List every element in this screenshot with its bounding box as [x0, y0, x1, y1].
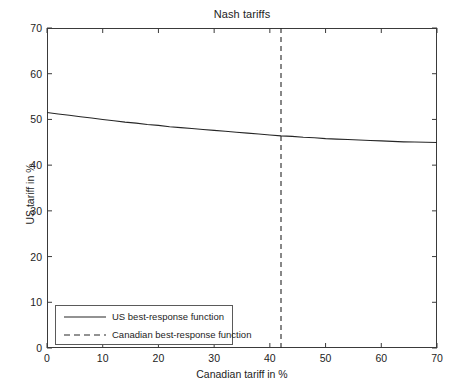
x-tick-label: 60: [361, 352, 401, 364]
page-title: Nash tariffs: [47, 8, 437, 20]
legend-label-canadian: Canadian best-response function: [112, 330, 251, 340]
y-tick-label: 10: [14, 296, 42, 308]
x-tick-label: 10: [83, 352, 123, 364]
x-tick-label: 50: [306, 352, 346, 364]
x-tick-label: 20: [138, 352, 178, 364]
y-tick-label: 50: [14, 113, 42, 125]
y-tick-label: 60: [14, 68, 42, 80]
axis-ticks: [47, 28, 437, 348]
legend-item-canadian: Canadian best-response function: [56, 325, 232, 344]
x-tick-label: 40: [250, 352, 290, 364]
nash-tariffs-figure: Nash tariffs 010203040506070 01020304050…: [0, 0, 455, 387]
legend-label-us: US best-response function: [112, 312, 224, 322]
x-tick-label: 30: [194, 352, 234, 364]
legend-solid-line-icon: [62, 311, 108, 323]
x-axis-title: Canadian tariff in %: [47, 368, 437, 380]
y-axis-title: US tariff in %: [24, 134, 36, 254]
legend-item-us: US best-response function: [56, 307, 232, 326]
plot-canvas: [47, 28, 437, 348]
legend-dashed-line-icon: [62, 329, 108, 341]
legend: US best-response function Canadian best-…: [55, 305, 233, 345]
us-best-response-curve: [47, 113, 437, 143]
y-tick-label: 70: [14, 22, 42, 34]
x-tick-label: 0: [27, 352, 67, 364]
x-tick-label: 70: [417, 352, 455, 364]
